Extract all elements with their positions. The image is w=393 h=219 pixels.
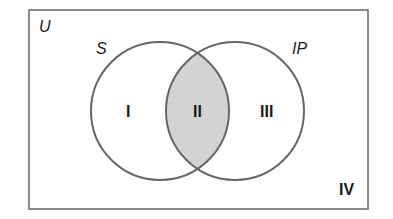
region-iv-label: IV bbox=[339, 182, 354, 198]
region-iii-label: III bbox=[260, 104, 273, 120]
universe-label: U bbox=[39, 19, 51, 35]
region-ii-label: II bbox=[193, 104, 202, 120]
region-i-label: I bbox=[126, 104, 130, 120]
set-ip-label: IP bbox=[292, 41, 307, 57]
set-s-label: S bbox=[96, 41, 107, 57]
